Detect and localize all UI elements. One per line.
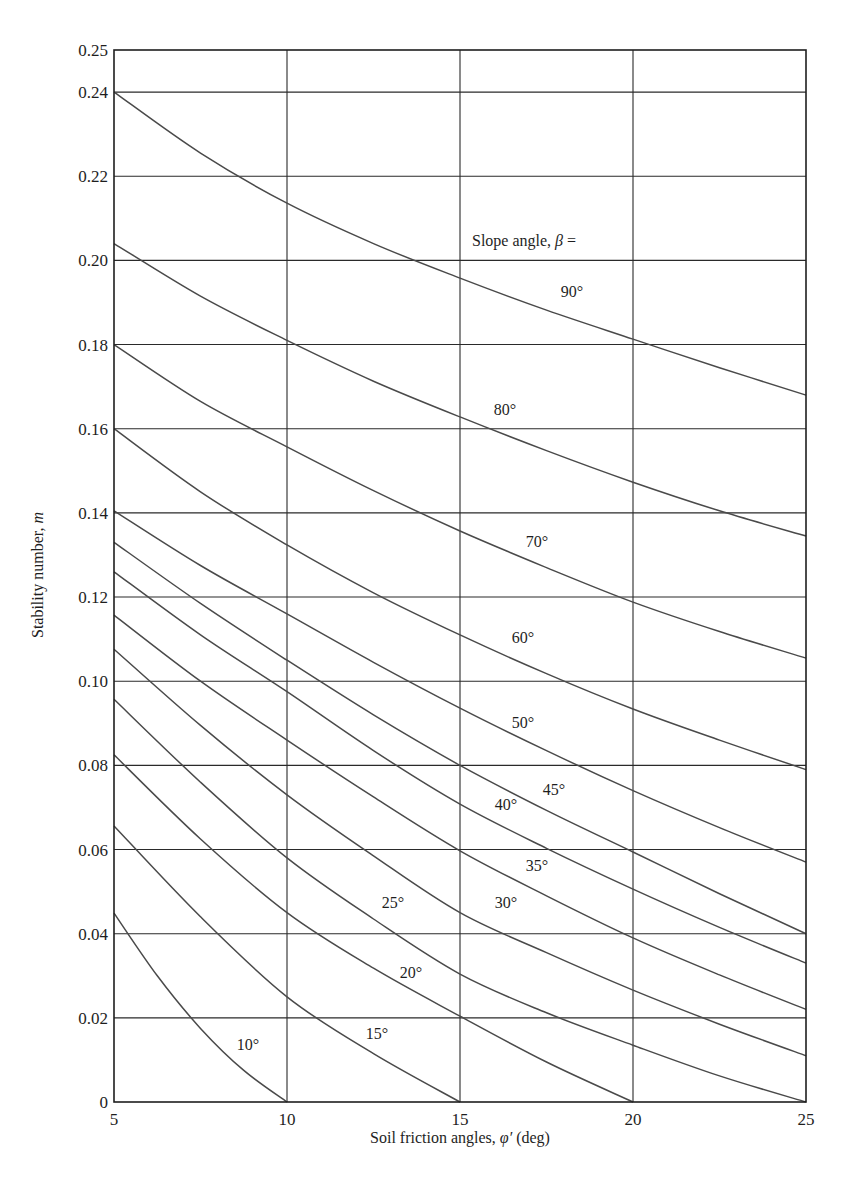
curve-label-beta-30: 30° bbox=[495, 894, 517, 911]
curve-label-beta-25: 25° bbox=[382, 894, 404, 911]
y-tick-label: 0.10 bbox=[78, 672, 108, 691]
y-tick-label: 0.14 bbox=[78, 504, 108, 523]
curve-beta-10 bbox=[114, 913, 287, 1102]
y-tick-label: 0.25 bbox=[78, 41, 108, 60]
y-tick-label: 0.22 bbox=[78, 167, 108, 186]
y-axis-title: Stability number, m bbox=[29, 512, 47, 638]
legend-title: Slope angle, β = bbox=[472, 232, 576, 250]
x-tick-label: 15 bbox=[452, 1110, 469, 1129]
chart: 00.020.040.060.080.100.120.140.160.180.2… bbox=[0, 0, 844, 1179]
y-tick-label: 0.18 bbox=[78, 336, 108, 355]
curve-beta-20 bbox=[114, 755, 633, 1102]
curve-label-beta-15: 15° bbox=[366, 1025, 388, 1042]
y-tick-label: 0.24 bbox=[78, 83, 108, 102]
curve-label-beta-20: 20° bbox=[400, 964, 422, 981]
y-tick-label: 0.08 bbox=[78, 756, 108, 775]
curve-label-beta-80: 80° bbox=[494, 401, 516, 418]
curve-label-beta-90: 90° bbox=[561, 283, 583, 300]
x-axis-title: Soil friction angles, φ′ (deg) bbox=[370, 1129, 550, 1147]
y-tick-label: 0.12 bbox=[78, 588, 108, 607]
y-tick-label: 0.20 bbox=[78, 251, 108, 270]
curve-label-beta-35: 35° bbox=[526, 857, 548, 874]
x-tick-label: 25 bbox=[798, 1110, 815, 1129]
x-axis-ticks: 510152025 bbox=[110, 1110, 815, 1129]
y-tick-label: 0.04 bbox=[78, 925, 108, 944]
x-tick-label: 5 bbox=[110, 1110, 119, 1129]
curve-label-beta-70: 70° bbox=[526, 533, 548, 550]
y-axis-ticks: 00.020.040.060.080.100.120.140.160.180.2… bbox=[78, 41, 108, 1112]
curve-label-beta-60: 60° bbox=[512, 629, 534, 646]
curve-label-beta-45: 45° bbox=[543, 781, 565, 798]
curve-label-beta-50: 50° bbox=[512, 714, 534, 731]
y-tick-label: 0.06 bbox=[78, 841, 108, 860]
curve-labels: 90°80°70°60°50°45°40°35°30°25°20°15°10° bbox=[237, 283, 583, 1053]
curve-label-beta-40: 40° bbox=[495, 796, 517, 813]
y-tick-label: 0.02 bbox=[78, 1009, 108, 1028]
y-tick-label: 0.16 bbox=[78, 420, 108, 439]
x-tick-label: 10 bbox=[279, 1110, 296, 1129]
curve-label-beta-10: 10° bbox=[237, 1036, 259, 1053]
x-tick-label: 20 bbox=[625, 1110, 642, 1129]
y-tick-label: 0 bbox=[100, 1093, 109, 1112]
